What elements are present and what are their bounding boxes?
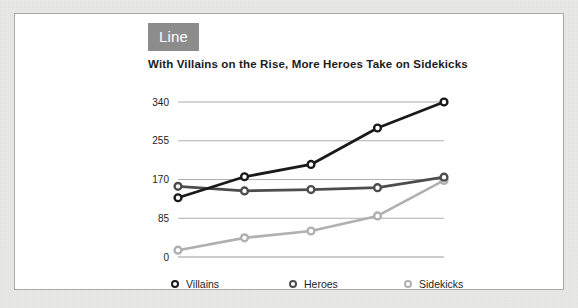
- line-chart-plot: 085170255340 20002002200420062008: [134, 76, 454, 261]
- data-point-marker: [241, 187, 248, 194]
- y-axis-tick-labels: 085170255340: [152, 97, 169, 262]
- y-axis-tick-label: 0: [163, 252, 169, 262]
- series-markers: [175, 99, 448, 254]
- y-axis-tick-label: 85: [158, 213, 170, 224]
- data-point-marker: [241, 234, 248, 241]
- data-point-marker: [175, 183, 182, 190]
- data-point-marker: [308, 228, 315, 235]
- y-axis-tick-label: 170: [152, 174, 169, 185]
- chart-svg: 085170255340 20002002200420062008: [134, 76, 454, 261]
- chart-card: Line With Villains on the Rise, More Her…: [14, 13, 564, 290]
- legend-label: Villains: [186, 278, 219, 290]
- legend-label: Sidekicks: [419, 278, 463, 290]
- legend-item-sidekicks[interactable]: Sidekicks: [404, 278, 463, 290]
- data-point-marker: [374, 184, 381, 191]
- chart-title: With Villains on the Rise, More Heroes T…: [148, 58, 468, 70]
- legend-label: Heroes: [304, 278, 338, 290]
- legend-item-villains[interactable]: Villains: [171, 278, 289, 290]
- data-point-marker: [175, 194, 182, 201]
- data-point-marker: [374, 125, 381, 132]
- data-point-marker: [441, 99, 448, 106]
- data-point-marker: [175, 247, 182, 254]
- data-point-marker: [374, 213, 381, 220]
- data-point-marker: [241, 173, 248, 180]
- y-axis-tick-label: 255: [152, 135, 169, 146]
- y-axis-tick-label: 340: [152, 97, 169, 108]
- legend-item-heroes[interactable]: Heroes: [289, 278, 404, 290]
- data-point-marker: [441, 174, 448, 181]
- legend-marker-icon: [404, 280, 412, 288]
- chart-legend: VillainsHeroesSidekicks: [171, 278, 471, 290]
- legend-marker-icon: [171, 280, 179, 288]
- legend-marker-icon: [289, 280, 297, 288]
- chart-type-badge: Line: [148, 23, 199, 51]
- data-point-marker: [308, 186, 315, 193]
- data-point-marker: [308, 161, 315, 168]
